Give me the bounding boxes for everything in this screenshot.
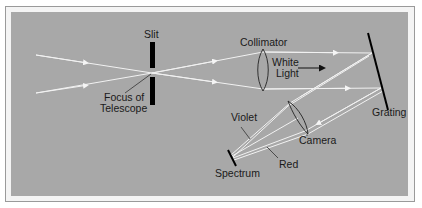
diverging-rays [152, 52, 263, 89]
violet-label: Violet [231, 111, 257, 123]
slit-bar [150, 42, 155, 68]
collimator-lens [258, 49, 269, 91]
camera-label: Camera [299, 134, 337, 146]
focus-label-line2: Telescope [100, 102, 147, 114]
red-label: Red [279, 158, 298, 170]
collimator-label: Collimator [240, 36, 288, 48]
red-pointer [267, 147, 278, 158]
spectrograph-diagram: Slit Focus of Telescope Collimator White… [0, 0, 422, 208]
violet-pointer [241, 127, 250, 139]
grating-label: Grating [372, 106, 407, 118]
slit-label: Slit [144, 28, 159, 40]
diffracted-rays [288, 53, 383, 134]
incoming-rays [36, 55, 152, 93]
slit-bar-lower [150, 77, 155, 105]
spectrum-label: Spectrum [215, 167, 260, 179]
white-light-label-line2: Light [276, 67, 299, 79]
spectrum-bar [228, 150, 236, 166]
camera-lens [288, 101, 308, 134]
